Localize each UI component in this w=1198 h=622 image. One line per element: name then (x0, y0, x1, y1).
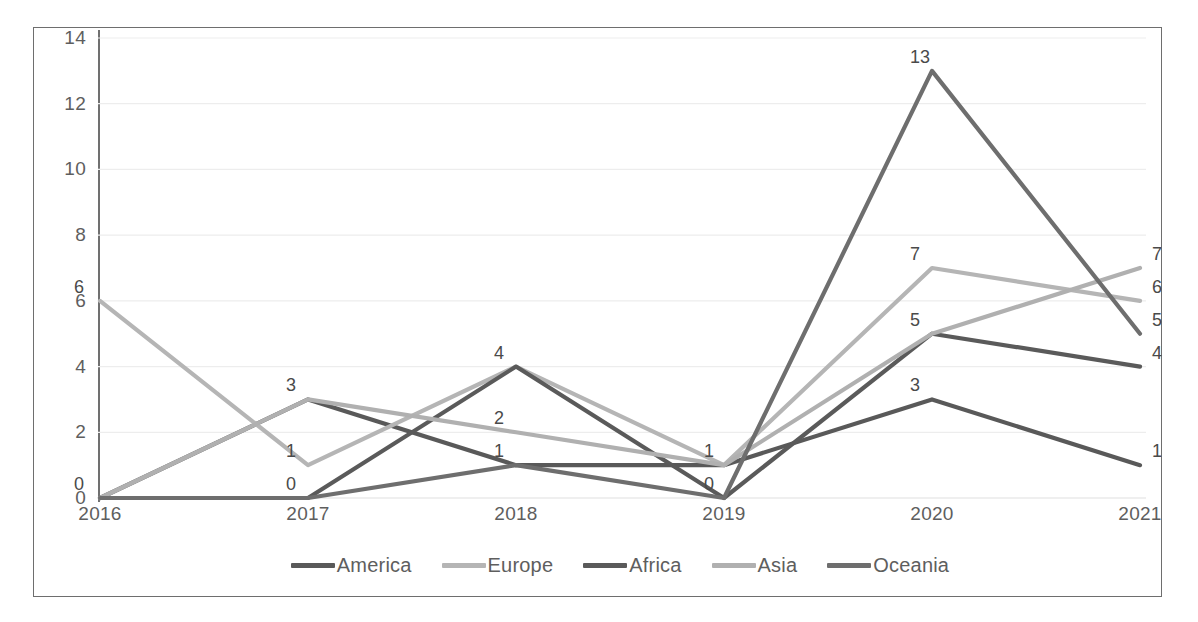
legend-swatch-icon (827, 563, 871, 568)
legend-swatch-icon (712, 563, 756, 568)
y-tick-label: 2 (40, 421, 86, 443)
legend-item-europe[interactable]: Europe (442, 554, 554, 577)
y-tick-label: 8 (40, 224, 86, 246)
legend-item-oceania[interactable]: Oceania (827, 554, 949, 577)
x-tick-label: 2019 (664, 503, 784, 525)
chart-legend: AmericaEuropeAfricaAsiaOceania (100, 548, 1140, 582)
x-tick-label: 2018 (456, 503, 576, 525)
x-tick-label: 2020 (872, 503, 992, 525)
x-tick-label: 2016 (40, 503, 160, 525)
plot-lines-svg (100, 38, 1140, 498)
legend-item-asia[interactable]: Asia (712, 554, 798, 577)
plot-area: 06310142103751316475 (100, 38, 1140, 498)
legend-swatch-icon (583, 563, 627, 568)
y-axis-tick-labels: 02468101214 (40, 38, 86, 498)
line-chart-figure: 02468101214 06310142103751316475 2016201… (0, 0, 1198, 622)
y-tick-label: 6 (40, 290, 86, 312)
legend-item-america[interactable]: America (291, 554, 412, 577)
legend-label: Oceania (873, 554, 949, 577)
legend-swatch-icon (442, 563, 486, 568)
legend-label: Africa (629, 554, 681, 577)
x-tick-label: 2021 (1080, 503, 1198, 525)
legend-item-africa[interactable]: Africa (583, 554, 681, 577)
y-tick-label: 12 (40, 93, 86, 115)
x-axis-tick-labels: 201620172018201920202021 (100, 503, 1140, 537)
y-tick-label: 4 (40, 356, 86, 378)
legend-label: Europe (488, 554, 554, 577)
x-tick-label: 2017 (248, 503, 368, 525)
legend-label: Asia (758, 554, 798, 577)
legend-swatch-icon (291, 563, 335, 568)
legend-label: America (337, 554, 412, 577)
y-tick-label: 14 (40, 27, 86, 49)
y-tick-label: 10 (40, 158, 86, 180)
